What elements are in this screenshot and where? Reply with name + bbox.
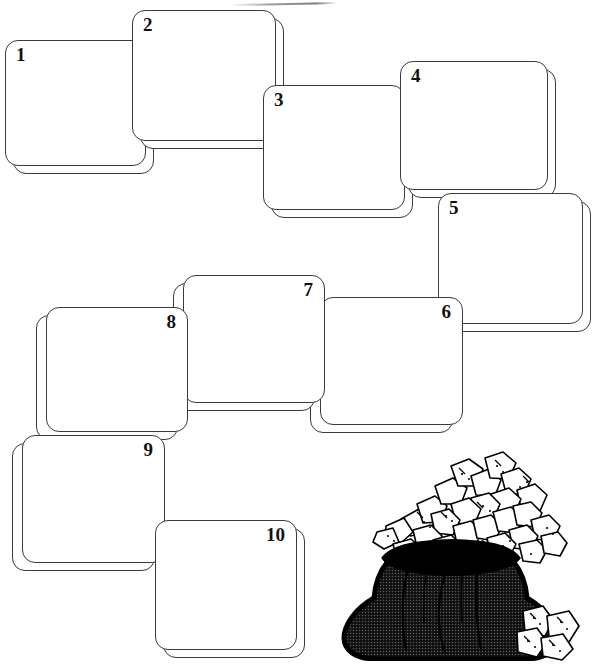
card-1-face[interactable]: 1 [5, 40, 146, 166]
spilled-rocks [517, 606, 579, 660]
card-3-face[interactable]: 3 [263, 85, 405, 210]
card-2-number-label: 2 [143, 15, 153, 34]
card-6-face[interactable]: 6 [320, 297, 463, 425]
card-10-face[interactable]: 10 [155, 520, 297, 650]
card-4-number-label: 4 [411, 66, 421, 85]
sack-of-rocks-illustration [331, 446, 597, 661]
card-3[interactable]: 3 [263, 85, 413, 218]
card-2-face[interactable]: 2 [132, 10, 276, 141]
card-6[interactable]: 6 [320, 297, 473, 433]
card-9-face[interactable]: 9 [22, 435, 165, 563]
card-8-number-label: 8 [167, 312, 177, 331]
card-8-face[interactable]: 8 [46, 307, 188, 432]
scan-artifact-streak [232, 2, 337, 6]
card-7[interactable]: 7 [183, 275, 335, 411]
card-9-number-label: 9 [144, 440, 154, 459]
card-6-number-label: 6 [442, 302, 452, 321]
card-1-number-label: 1 [16, 45, 26, 64]
card-10[interactable]: 10 [155, 520, 305, 658]
card-2[interactable]: 2 [132, 10, 284, 149]
worksheet-canvas: 12345678910 [0, 0, 597, 664]
card-4[interactable]: 4 [400, 61, 556, 198]
card-10-number-label: 10 [266, 525, 285, 544]
card-5-number-label: 5 [449, 198, 459, 217]
card-4-face[interactable]: 4 [400, 61, 548, 190]
card-7-face[interactable]: 7 [183, 275, 325, 403]
card-8[interactable]: 8 [46, 307, 198, 440]
card-3-number-label: 3 [274, 90, 284, 109]
card-7-number-label: 7 [304, 280, 314, 299]
card-9[interactable]: 9 [22, 435, 175, 571]
